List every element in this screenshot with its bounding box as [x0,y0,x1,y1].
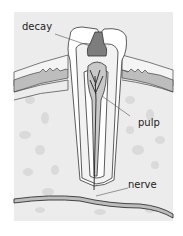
nerve-label: nerve [128,180,157,190]
pulp-label: pulp [138,118,160,128]
decay-label: decay [22,22,52,32]
